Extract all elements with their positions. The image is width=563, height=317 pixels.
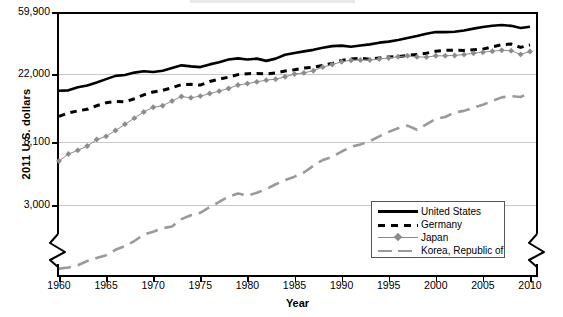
series-marker-japan <box>150 104 156 110</box>
series-marker-japan <box>178 94 184 100</box>
series-marker-japan <box>169 98 175 104</box>
series-marker-japan <box>131 115 137 121</box>
series-marker-japan <box>461 52 467 58</box>
series-marker-japan <box>357 57 363 63</box>
series-marker-japan <box>452 52 458 58</box>
x-tick-mark <box>295 277 297 282</box>
series-marker-japan <box>226 85 232 91</box>
series-marker-japan <box>141 109 147 115</box>
x-tick-mark <box>247 277 249 282</box>
series-marker-japan <box>273 76 279 82</box>
x-tick-mark <box>342 277 344 282</box>
series-line-japan <box>59 50 530 161</box>
series-marker-japan <box>122 121 128 127</box>
series-marker-japan <box>499 47 505 53</box>
x-tick-mark <box>200 277 202 282</box>
x-tick-mark <box>436 277 438 282</box>
series-marker-japan <box>405 53 411 59</box>
y-tick-label: 22,000 <box>0 67 50 79</box>
series-marker-japan <box>103 133 109 139</box>
x-tick-mark <box>106 277 108 282</box>
series-marker-japan <box>433 53 439 59</box>
series-marker-japan <box>235 82 241 88</box>
series-marker-japan <box>423 54 429 60</box>
series-marker-japan <box>508 48 514 54</box>
series-marker-japan <box>75 147 81 153</box>
legend-label-japan: Japan <box>420 231 448 244</box>
series-marker-japan <box>263 77 269 83</box>
legend-swatch-germany <box>376 218 420 231</box>
series-marker-japan <box>244 81 250 87</box>
y-tick-label: 8,100 <box>0 135 50 147</box>
series-marker-japan <box>188 95 194 101</box>
series-marker-japan <box>395 54 401 60</box>
series-marker-japan <box>94 137 100 143</box>
series-marker-japan <box>216 88 222 94</box>
series-marker-japan <box>207 91 213 97</box>
x-tick-mark <box>483 277 485 282</box>
legend-swatch-united-states <box>376 205 420 218</box>
series-marker-japan <box>292 71 298 77</box>
series-line-united-states <box>59 25 530 91</box>
y-axis-label: 2011 U.S. dollars <box>20 64 32 204</box>
x-axis-label: Year <box>57 297 538 309</box>
series-marker-japan <box>113 127 119 133</box>
series-marker-japan <box>310 68 316 74</box>
series-marker-japan <box>84 143 90 149</box>
legend-swatch-korea <box>376 244 420 257</box>
x-tick-mark <box>530 277 532 282</box>
x-tick-mark <box>59 277 61 282</box>
x-tick-mark <box>153 277 155 282</box>
legend-label-united-states: United States <box>420 205 481 218</box>
chart-figure: 2011 U.S. dollars Year 59,90022,0008,100… <box>0 0 563 317</box>
legend-label-germany: Germany <box>420 218 462 231</box>
series-marker-japan <box>442 53 448 59</box>
legend-swatch-japan <box>376 231 420 244</box>
series-marker-japan <box>527 49 533 55</box>
legend-item-korea: Korea, Republic of <box>376 244 500 257</box>
legend-item-united-states: United States <box>376 205 500 218</box>
series-marker-japan <box>301 70 307 76</box>
series-marker-japan <box>254 79 260 85</box>
x-tick-mark <box>389 277 391 282</box>
series-marker-japan <box>160 103 166 109</box>
series-marker-japan <box>197 93 203 99</box>
legend-item-germany: Germany <box>376 218 500 231</box>
series-marker-japan <box>489 48 495 54</box>
legend: United States Germany Japan Korea, Repub… <box>371 201 505 258</box>
legend-item-japan: Japan <box>376 231 500 244</box>
series-marker-japan <box>518 51 524 57</box>
legend-label-korea: Korea, Republic of <box>420 244 503 257</box>
cropped-title-remnant <box>190 0 355 3</box>
y-tick-label: 59,900 <box>0 5 50 17</box>
series-marker-japan <box>282 74 288 80</box>
y-tick-label: 3,000 <box>0 198 50 210</box>
